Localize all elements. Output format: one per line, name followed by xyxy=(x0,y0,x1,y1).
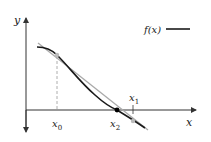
tangent-line xyxy=(38,43,148,130)
x0-point xyxy=(55,53,59,57)
legend-label: f(x) xyxy=(143,24,161,35)
y-axis-label: y xyxy=(13,14,21,27)
newton-method-diagram: y x x0 x2 x1 f(x) xyxy=(0,0,211,142)
tangent-end-point xyxy=(131,119,135,123)
x2-root-point xyxy=(115,108,120,113)
function-curve xyxy=(37,47,145,128)
x2-label: x2 xyxy=(110,118,120,132)
x-axis-label: x xyxy=(186,116,193,129)
x0-label: x0 xyxy=(52,118,62,132)
x1-label: x1 xyxy=(129,92,139,106)
